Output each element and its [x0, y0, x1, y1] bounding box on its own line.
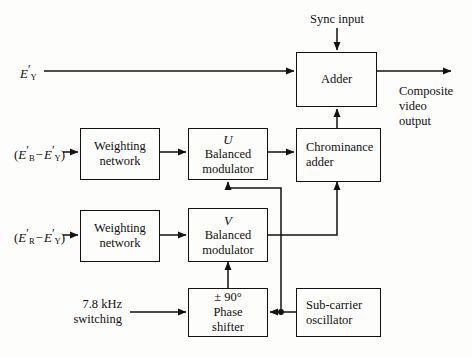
label-red-difference-input: (E′R−E′Y)	[14, 226, 65, 246]
block-weighting-v-line2: network	[100, 236, 141, 251]
block-modv-symbol: V	[224, 213, 232, 228]
block-weighting-network-v[interactable]: Weighting network	[80, 210, 160, 262]
block-balanced-modulator-v[interactable]: V Balanced modulator	[188, 208, 268, 262]
label-switching-input: 7.8 kHz switching	[30, 297, 122, 327]
block-phase-shifter[interactable]: ± 90° Phase shifter	[188, 288, 268, 337]
block-chroma-line1: Chrominance	[306, 140, 373, 155]
blue-close-paren: )	[61, 147, 65, 162]
block-modu-line2: modulator	[202, 162, 253, 177]
block-modu-line1: Balanced	[205, 147, 252, 162]
luma-subscript: Y	[31, 72, 37, 82]
label-luma-input: E′Y	[20, 62, 37, 82]
block-weighting-u-line1: Weighting	[94, 139, 146, 154]
block-chrominance-adder[interactable]: Chrominance adder	[296, 128, 381, 182]
label-blue-difference-input: (E′B−E′Y)	[14, 143, 65, 163]
red-minus: −	[35, 230, 44, 245]
block-modu-symbol: U	[223, 132, 232, 147]
block-modv-line2: modulator	[202, 243, 253, 258]
block-adder[interactable]: Adder	[296, 52, 377, 107]
label-sync-input: Sync input	[287, 12, 387, 27]
blue-subscript-b: B	[29, 153, 35, 163]
red-close-paren: )	[61, 230, 65, 245]
block-balanced-modulator-u[interactable]: U Balanced modulator	[188, 128, 268, 180]
red-symbol-y: E	[44, 230, 52, 245]
block-phase-line1: Phase	[213, 305, 242, 320]
block-modv-line1: Balanced	[205, 228, 252, 243]
block-phase-line2: shifter	[212, 320, 244, 335]
block-diagram: Adder Weighting network U Balanced modul…	[0, 0, 472, 357]
red-subscript-r: R	[29, 236, 35, 246]
block-subcarrier-oscillator[interactable]: Sub-carrier oscillator	[296, 288, 381, 337]
block-subcarrier-line2: oscillator	[306, 313, 353, 328]
blue-symbol-y: E	[44, 147, 52, 162]
block-weighting-v-line1: Weighting	[94, 221, 146, 236]
wire-modv-to-chroma	[268, 182, 337, 235]
blue-minus: −	[35, 147, 44, 162]
block-weighting-u-line2: network	[100, 154, 141, 169]
luma-symbol: E	[20, 66, 28, 81]
label-composite-video-output: Composite video output	[399, 84, 471, 129]
junction-dot-subcarrier	[278, 309, 284, 315]
block-chroma-line2: adder	[306, 155, 334, 170]
block-subcarrier-line1: Sub-carrier	[306, 298, 362, 313]
block-phase-angle: ± 90°	[214, 290, 241, 305]
block-adder-label: Adder	[321, 72, 352, 87]
block-weighting-network-u[interactable]: Weighting network	[80, 128, 160, 180]
